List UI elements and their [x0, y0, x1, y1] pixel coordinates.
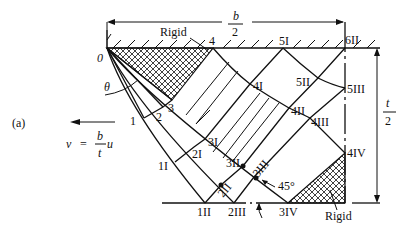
svg-text:6II: 6II: [345, 33, 359, 47]
svg-text:2III: 2III: [228, 205, 246, 219]
svg-text:1II: 1II: [197, 205, 211, 219]
svg-text:1I: 1I: [158, 159, 168, 173]
height-denominator: 2: [385, 114, 391, 128]
svg-text:2II: 2II: [215, 180, 235, 200]
height-dimension: t 2: [374, 48, 396, 203]
rigid-label-top: Rigid: [160, 25, 187, 39]
node-dot-3II: [241, 164, 246, 169]
svg-text:1: 1: [130, 114, 136, 128]
svg-text:b: b: [97, 129, 103, 143]
angle-45-label: 45°: [278, 179, 295, 193]
svg-text:5II: 5II: [296, 75, 310, 89]
svg-text:4II: 4II: [291, 104, 305, 118]
svg-text:4III: 4III: [311, 115, 329, 129]
width-denominator: 2: [232, 25, 238, 39]
svg-text:3IV: 3IV: [279, 205, 298, 219]
svg-text:4IV: 4IV: [347, 146, 366, 160]
svg-text:5III: 5III: [347, 82, 365, 96]
svg-text:t: t: [98, 146, 102, 160]
svg-text:3: 3: [168, 101, 174, 115]
slip-line-field-diagram: b 2 Rigid Rigid t 2: [0, 0, 405, 237]
svg-text:2: 2: [156, 110, 162, 124]
velocity-indicator: v = b t u: [66, 119, 115, 160]
svg-text:3I: 3I: [208, 135, 218, 149]
rigid-region-bottom: [288, 153, 345, 203]
width-numerator: b: [233, 9, 239, 23]
slip-lines-beta: [213, 48, 345, 153]
svg-text:2I: 2I: [192, 147, 202, 161]
svg-text:v: v: [66, 137, 72, 151]
svg-text:4I: 4I: [253, 79, 263, 93]
height-numerator: t: [386, 96, 390, 110]
svg-text:5I: 5I: [279, 34, 289, 48]
svg-text:0: 0: [97, 51, 103, 65]
theta-label: θ: [104, 80, 110, 94]
svg-text:3II: 3II: [226, 156, 240, 170]
svg-text:u: u: [107, 137, 113, 151]
panel-label: (a): [12, 116, 25, 130]
width-dimension: b 2: [107, 9, 343, 48]
rigid-label-bottom: Rigid: [325, 209, 352, 223]
svg-text:4: 4: [209, 34, 215, 48]
svg-text:=: =: [80, 137, 87, 151]
